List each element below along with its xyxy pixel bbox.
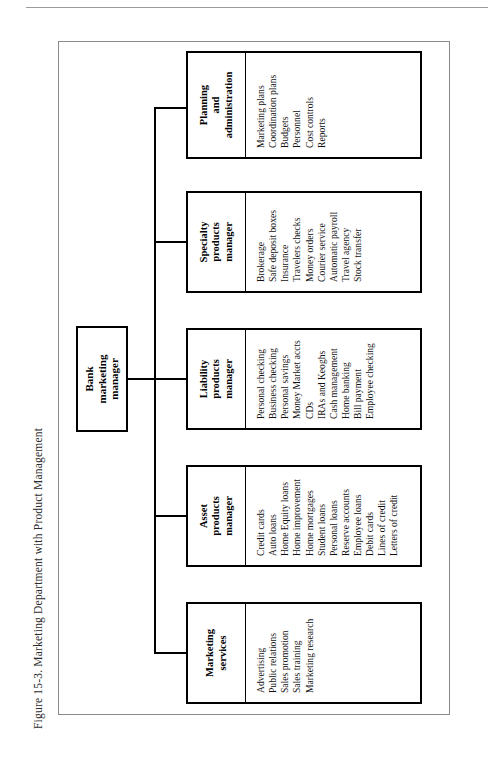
node-liability-products-manager: Liability products manager Personal chec… bbox=[186, 328, 422, 430]
list-item: Student loans bbox=[316, 475, 328, 556]
title-line-1: Asset bbox=[198, 504, 209, 528]
node-title-asset-products-manager: Asset products manager bbox=[188, 467, 246, 565]
title-line-3: manager bbox=[223, 222, 234, 262]
list-item: Personnel bbox=[291, 61, 303, 148]
node-title-liability-products-manager: Liability products manager bbox=[188, 330, 246, 428]
node-asset-products-manager: Asset products manager Credit cards Auto… bbox=[186, 465, 422, 567]
list-item: Sales promotion bbox=[279, 612, 291, 693]
list-item: Money Market accts bbox=[291, 338, 303, 419]
title-line-2: products bbox=[210, 359, 221, 398]
page-rule bbox=[26, 7, 488, 8]
list-item: Letters of credit bbox=[388, 475, 400, 556]
node-planning-and-administration: Planning and administration Marketing pl… bbox=[186, 51, 422, 159]
title-line-3: manager bbox=[223, 359, 234, 399]
figure-page: Figure 15-3. Marketing Department with P… bbox=[0, 0, 494, 757]
connector-drop-3 bbox=[154, 377, 186, 379]
list-item: Employee loans bbox=[352, 475, 364, 556]
node-items-planning-and-administration: Marketing plans Coordination plans Budge… bbox=[246, 53, 420, 157]
list-item: Personal checking bbox=[255, 338, 267, 419]
list-item: Business checking bbox=[267, 338, 279, 419]
node-specialty-products-manager: Specialty products manager Brokerage Saf… bbox=[186, 191, 422, 293]
list-item: Coordination plans bbox=[267, 61, 279, 148]
list-item: Home mortgages bbox=[304, 475, 316, 556]
connector-drop-5 bbox=[154, 106, 186, 108]
root-label-line-1: Bank bbox=[83, 354, 96, 403]
list-item: Auto loans bbox=[267, 475, 279, 556]
list-item: Bill payment bbox=[352, 338, 364, 419]
node-items-specialty-products-manager: Brokerage Safe deposit boxes Insurance T… bbox=[246, 193, 420, 291]
node-items-marketing-services: Advertising Public relations Sales promo… bbox=[246, 604, 420, 702]
list-item: Public relations bbox=[267, 612, 279, 693]
list-item: Money orders bbox=[304, 201, 316, 282]
figure-caption: Figure 15-3. Marketing Department with P… bbox=[32, 427, 44, 728]
list-item: Debit cards bbox=[364, 475, 376, 556]
connector-drop-1 bbox=[154, 651, 186, 653]
list-item: Brokerage bbox=[255, 201, 267, 282]
org-chart: Bank marketing manager Marketing bbox=[58, 43, 448, 715]
list-item: Automatic payroll bbox=[328, 201, 340, 282]
list-item: Insurance bbox=[279, 201, 291, 282]
title-line-1: Planning bbox=[198, 84, 209, 124]
title-line-1: Specialty bbox=[198, 221, 209, 262]
list-item: Marketing research bbox=[304, 612, 316, 693]
list-item: Budgets bbox=[279, 61, 291, 148]
title-line-1: Liability bbox=[198, 359, 209, 398]
list-item: Marketing plans bbox=[255, 61, 267, 148]
list-item: Travel agency bbox=[340, 201, 352, 282]
list-item: Cost controls bbox=[304, 61, 316, 148]
list-item: Lines of credit bbox=[376, 475, 388, 556]
list-item: Personal loans bbox=[328, 475, 340, 556]
connector-drop-4 bbox=[154, 240, 186, 242]
connector-drop-2 bbox=[154, 514, 186, 516]
node-marketing-services: Marketing services Advertising Public re… bbox=[186, 602, 422, 704]
title-line-2: and bbox=[210, 96, 221, 113]
list-item: Stock transfer bbox=[352, 201, 364, 282]
list-item: Cash management bbox=[328, 338, 340, 419]
list-item: Courier service bbox=[316, 201, 328, 282]
list-item: Home Equity loans bbox=[279, 475, 291, 556]
list-item: IRAs and Keoghs bbox=[316, 338, 328, 419]
root-label-line-2: marketing bbox=[96, 354, 109, 403]
list-item: Home improvement bbox=[291, 475, 303, 556]
list-item: CDs bbox=[304, 338, 316, 419]
title-line-3: manager bbox=[223, 496, 234, 536]
list-item: Credit cards bbox=[255, 475, 267, 556]
title-line-2: products bbox=[210, 496, 221, 535]
connector-root-stem bbox=[128, 377, 156, 379]
title-line-2: services bbox=[217, 635, 228, 670]
node-title-marketing-services: Marketing services bbox=[188, 604, 246, 702]
title-line-2: products bbox=[210, 222, 221, 261]
list-item: Reserve accounts bbox=[340, 475, 352, 556]
node-title-specialty-products-manager: Specialty products manager bbox=[188, 193, 246, 291]
title-line-3: administration bbox=[223, 71, 234, 138]
list-item: Home banking bbox=[340, 338, 352, 419]
list-item: Sales training bbox=[291, 612, 303, 693]
title-line-1: Marketing bbox=[204, 629, 215, 677]
list-item: Advertising bbox=[255, 612, 267, 693]
list-item: Travelers checks bbox=[291, 201, 303, 282]
rotated-figure-stage: Figure 15-3. Marketing Department with P… bbox=[32, 29, 462, 729]
list-item: Reports bbox=[316, 61, 328, 148]
node-items-liability-products-manager: Personal checking Business checking Pers… bbox=[246, 330, 420, 428]
root-node-bank-marketing-manager: Bank marketing manager bbox=[76, 326, 128, 432]
root-label-line-3: manager bbox=[108, 354, 121, 403]
list-item: Employee checking bbox=[364, 338, 376, 419]
list-item: Safe deposit boxes bbox=[267, 201, 279, 282]
list-item: Personal savings bbox=[279, 338, 291, 419]
node-items-asset-products-manager: Credit cards Auto loans Home Equity loan… bbox=[246, 467, 420, 565]
node-title-planning-and-administration: Planning and administration bbox=[188, 53, 246, 157]
